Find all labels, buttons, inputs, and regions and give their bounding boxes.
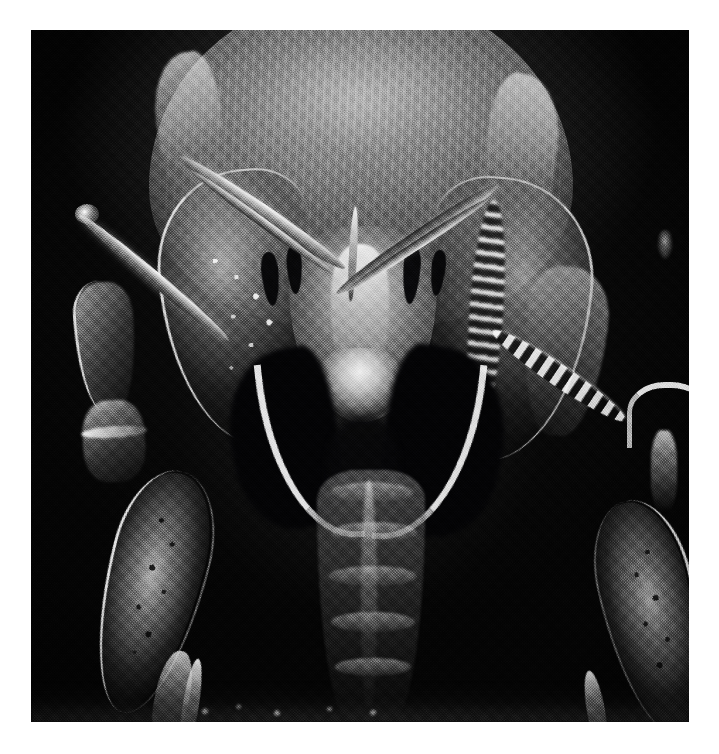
figure-caption bbox=[31, 726, 689, 750]
page-canvas bbox=[0, 0, 719, 754]
micrograph-plate bbox=[31, 30, 689, 722]
vignette bbox=[31, 30, 689, 722]
